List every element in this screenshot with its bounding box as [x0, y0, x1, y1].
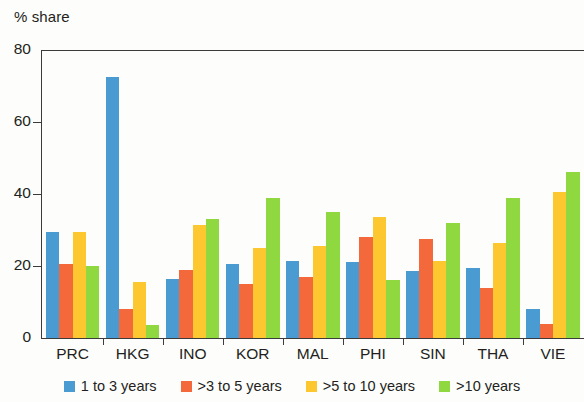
bar-hkg--3-to-5-years — [119, 309, 132, 338]
bar-hkg--5-to-10-years — [133, 282, 146, 338]
legend-swatch-icon — [306, 381, 317, 392]
bar-phi--10-years — [386, 280, 399, 338]
legend-item--10-years: >10 years — [439, 378, 520, 394]
legend-item--3-to-5-years: >3 to 5 years — [181, 378, 282, 394]
bar-mal--5-to-10-years — [313, 246, 326, 338]
x-axis-tick — [463, 338, 464, 345]
x-axis-tick — [343, 338, 344, 345]
y-axis-label-60: 60 — [0, 113, 31, 129]
x-axis-tick — [103, 338, 104, 345]
bar-vie--5-to-10-years — [553, 192, 566, 338]
bar-ino--3-to-5-years — [179, 270, 192, 338]
bar-hkg-1-to-3-years — [106, 77, 119, 338]
bar-group-prc — [46, 50, 100, 338]
bar-phi--3-to-5-years — [359, 237, 372, 338]
chart-legend: 1 to 3 years>3 to 5 years>5 to 10 years>… — [0, 378, 584, 394]
legend-item-1-to-3-years: 1 to 3 years — [64, 378, 157, 394]
legend-label: >3 to 5 years — [198, 378, 282, 394]
x-axis-label-hkg: HKG — [116, 345, 150, 363]
bar-tha-1-to-3-years — [466, 268, 479, 338]
x-axis-tick — [403, 338, 404, 345]
y-axis-label-40: 40 — [0, 185, 31, 201]
bar-tha--3-to-5-years — [480, 288, 493, 338]
bar-kor--5-to-10-years — [253, 248, 266, 338]
legend-swatch-icon — [439, 381, 450, 392]
bar-group-hkg — [106, 50, 160, 338]
x-axis-label-kor: KOR — [236, 345, 270, 363]
legend-label: >10 years — [456, 378, 520, 394]
x-axis-label-prc: PRC — [56, 345, 89, 363]
bar-sin-1-to-3-years — [406, 271, 419, 338]
bar-mal--3-to-5-years — [299, 277, 312, 338]
y-axis-tick-20 — [33, 266, 41, 267]
bar-ino-1-to-3-years — [166, 279, 179, 338]
bar-sin--10-years — [446, 223, 459, 338]
bar-vie--3-to-5-years — [540, 324, 553, 338]
y-axis-label-80: 80 — [0, 41, 31, 57]
bar-group-vie — [526, 50, 580, 338]
bar-vie--10-years — [566, 172, 579, 338]
bar-ino--10-years — [206, 219, 219, 338]
bar-sin--5-to-10-years — [433, 261, 446, 338]
y-axis-label-20: 20 — [0, 257, 31, 273]
bar-group-mal — [286, 50, 340, 338]
x-axis-label-phi: PHI — [360, 345, 386, 363]
bar-prc--3-to-5-years — [59, 264, 72, 338]
bar-kor--10-years — [266, 198, 279, 338]
x-axis-tick — [223, 338, 224, 345]
y-axis-title: % share — [14, 8, 70, 25]
bar-tha--5-to-10-years — [493, 243, 506, 338]
y-axis-tick-40 — [33, 194, 41, 195]
bar-prc--10-years — [86, 266, 99, 338]
bar-group-sin — [406, 50, 460, 338]
x-axis-label-sin: SIN — [420, 345, 446, 363]
bar-prc--5-to-10-years — [73, 232, 86, 338]
x-axis-label-tha: THA — [477, 345, 508, 363]
bars-container — [43, 50, 584, 338]
bar-kor--3-to-5-years — [239, 284, 252, 338]
bar-group-phi — [346, 50, 400, 338]
x-axis-label-ino: INO — [179, 345, 207, 363]
bar-group-kor — [226, 50, 280, 338]
bar-sin--3-to-5-years — [419, 239, 432, 338]
x-axis-label-vie: VIE — [540, 345, 565, 363]
bar-phi--5-to-10-years — [373, 217, 386, 338]
bar-hkg--10-years — [146, 325, 159, 338]
legend-swatch-icon — [181, 381, 192, 392]
bar-phi-1-to-3-years — [346, 262, 359, 338]
bar-ino--5-to-10-years — [193, 225, 206, 338]
bar-chart-figure: % share 806040200 PRCHKGINOKORMALPHISINT… — [0, 0, 584, 402]
x-axis-tick — [283, 338, 284, 345]
y-axis-label-0: 0 — [0, 329, 31, 345]
legend-item--5-to-10-years: >5 to 10 years — [306, 378, 415, 394]
bar-prc-1-to-3-years — [46, 232, 59, 338]
bar-mal-1-to-3-years — [286, 261, 299, 338]
legend-swatch-icon — [64, 381, 75, 392]
legend-label: 1 to 3 years — [81, 378, 157, 394]
bar-mal--10-years — [326, 212, 339, 338]
bar-group-ino — [166, 50, 220, 338]
x-axis-tick — [163, 338, 164, 345]
y-axis-tick-60 — [33, 122, 41, 123]
bar-group-tha — [466, 50, 520, 338]
bar-kor-1-to-3-years — [226, 264, 239, 338]
x-axis-label-mal: MAL — [297, 345, 329, 363]
bar-tha--10-years — [506, 198, 519, 338]
legend-label: >5 to 10 years — [323, 378, 415, 394]
x-axis-tick — [523, 338, 524, 345]
bar-vie-1-to-3-years — [526, 309, 539, 338]
